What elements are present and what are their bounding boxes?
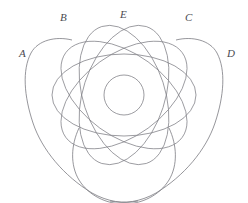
vertex-label-c: C bbox=[185, 12, 192, 23]
vertex-label-e: E bbox=[120, 9, 127, 20]
ellipse-rot-144 bbox=[42, 20, 207, 171]
curve-canvas bbox=[0, 0, 248, 203]
lobe-bottom-path bbox=[73, 128, 176, 203]
ellipse-rot-0 bbox=[52, 54, 196, 136]
ellipse-rot-36 bbox=[42, 20, 207, 171]
lobe-left-path bbox=[25, 39, 138, 203]
ellipse-group bbox=[42, 14, 207, 176]
central-circle bbox=[104, 75, 144, 115]
vertex-label-a: A bbox=[19, 48, 26, 59]
vertex-label-d: D bbox=[227, 48, 235, 59]
ellipse-rot-108 bbox=[63, 14, 185, 176]
vertex-label-b: B bbox=[60, 12, 67, 23]
lobe-right-path bbox=[110, 39, 223, 203]
outer-lobe-group bbox=[25, 39, 223, 203]
ellipse-rot-72 bbox=[63, 14, 185, 176]
central-circle-group bbox=[104, 75, 144, 115]
rosette-figure: A B E C D bbox=[0, 0, 248, 203]
